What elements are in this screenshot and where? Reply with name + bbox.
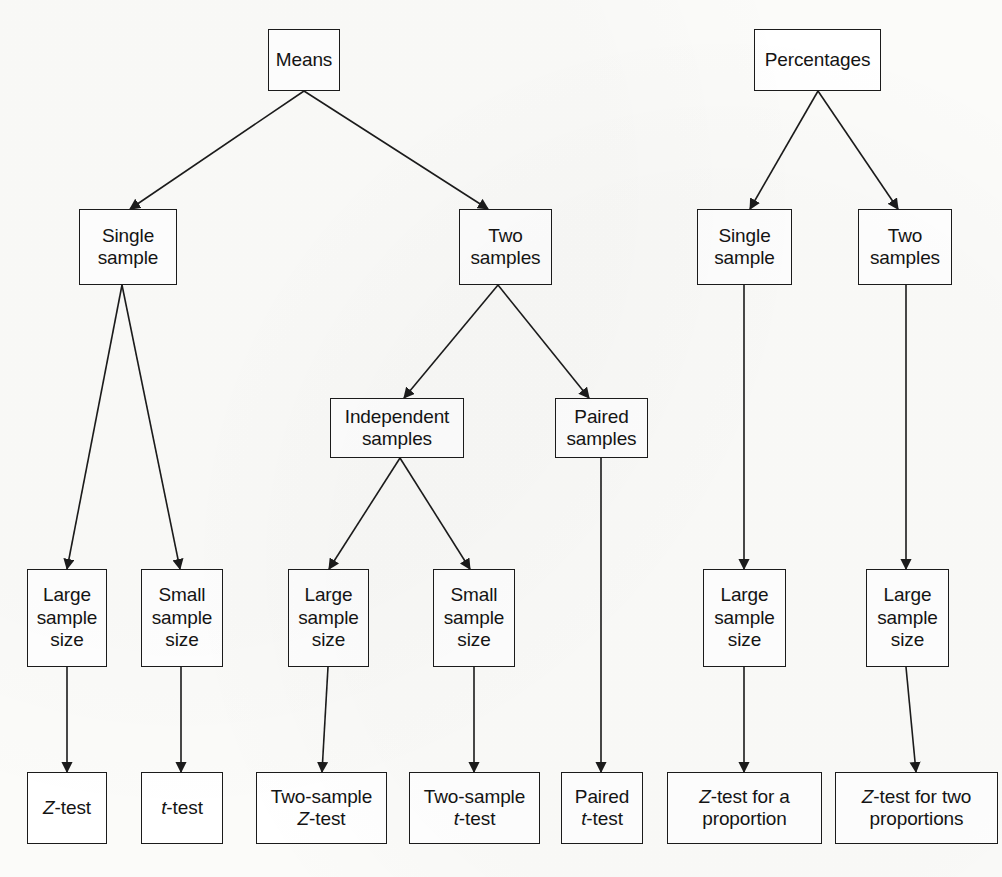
node-label: Twosamples — [470, 225, 540, 270]
node-label: Z-test for twoproportions — [862, 786, 971, 831]
node-label: Largesamplesize — [298, 584, 359, 651]
node-label: Independentsamples — [345, 406, 450, 451]
node-label: Pairedt-test — [575, 786, 629, 831]
node-p-two: Twosamples — [858, 209, 952, 285]
connector-arrow — [329, 458, 400, 569]
node-ss-3: Largesamplesize — [288, 569, 369, 667]
node-t-zp: Z-test for aproportion — [667, 772, 822, 844]
node-t-pt: Pairedt-test — [561, 772, 643, 844]
node-ss-5: Largesamplesize — [703, 569, 786, 667]
connector-arrow — [404, 285, 498, 398]
node-t-z: Z-test — [27, 772, 107, 844]
node-label: Smallsamplesize — [444, 584, 505, 651]
connector-arrow — [750, 91, 818, 209]
node-label: Largesamplesize — [37, 584, 98, 651]
node-ss-2: Smallsamplesize — [141, 569, 223, 667]
node-label: Z-test — [43, 797, 91, 819]
connector-arrow — [818, 91, 898, 209]
node-label: Twosamples — [870, 225, 940, 270]
node-m-two: Twosamples — [459, 209, 552, 285]
connector-arrow — [906, 667, 916, 772]
node-ss-1: Largesamplesize — [27, 569, 107, 667]
node-label: Largesamplesize — [714, 584, 775, 651]
node-t-z2p: Z-test for twoproportions — [835, 772, 998, 844]
edge-layer — [0, 0, 1002, 877]
node-t-t: t-test — [141, 772, 223, 844]
connector-arrow — [122, 285, 180, 569]
node-label: Singlesample — [714, 225, 775, 270]
connector-arrow — [400, 458, 470, 569]
node-p-single: Singlesample — [697, 209, 792, 285]
node-label: Largesamplesize — [877, 584, 938, 651]
connector-arrow — [67, 285, 122, 569]
node-label: Z-test for aproportion — [699, 786, 790, 831]
connector-arrow — [130, 91, 304, 209]
connector-arrow — [304, 91, 488, 209]
node-label: Means — [276, 49, 333, 71]
diagram-canvas: MeansPercentagesSinglesampleTwosamplesSi… — [0, 0, 1002, 877]
node-label: Pairedsamples — [566, 406, 636, 451]
node-ss-6: Largesamplesize — [866, 569, 949, 667]
node-m-paired: Pairedsamples — [555, 398, 648, 458]
connector-arrow — [322, 667, 328, 772]
node-label: Two-sampleZ-test — [271, 786, 372, 831]
node-label: t-test — [161, 797, 203, 819]
node-label: Two-samplet-test — [424, 786, 525, 831]
node-percentages: Percentages — [754, 29, 881, 91]
node-m-independent: Independentsamples — [330, 398, 464, 458]
connector-arrow — [498, 285, 589, 398]
node-label: Singlesample — [98, 225, 159, 270]
node-t-2t: Two-samplet-test — [409, 772, 540, 844]
node-label: Smallsamplesize — [152, 584, 213, 651]
node-label: Percentages — [765, 49, 871, 71]
node-ss-4: Smallsamplesize — [433, 569, 515, 667]
node-means: Means — [268, 29, 340, 91]
node-t-2z: Two-sampleZ-test — [256, 772, 387, 844]
paper-grain-overlay — [0, 0, 1002, 877]
node-m-single: Singlesample — [79, 209, 177, 285]
